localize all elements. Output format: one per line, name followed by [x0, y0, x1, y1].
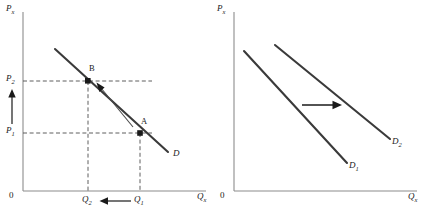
quantity-decrease-arrow [100, 197, 132, 204]
right-panel-graphic [211, 0, 422, 215]
x-tick-label-q1: Q1 [134, 195, 144, 206]
movement-arrow-A-to-B [97, 83, 134, 127]
left-origin-label: 0 [9, 191, 14, 200]
right-panel-shift-of-curve: Px Qx 0 D1 D2 [211, 0, 422, 215]
left-x-axis-label: Qx [197, 192, 206, 203]
curve-label-D2: D2 [392, 137, 402, 148]
price-increase-arrow [8, 89, 15, 124]
point-label-B: B [89, 64, 95, 73]
shift-right-arrow [302, 101, 342, 109]
left-panel-movement-along-curve: Px Qx 0 P2 P1 Q2 Q1 B A D [0, 0, 211, 215]
curve-label-D: D [173, 149, 180, 160]
demand-curve-D1 [244, 51, 347, 163]
right-x-axis-label: Qx [408, 192, 417, 203]
demand-curve-D2 [275, 45, 390, 139]
curve-label-D1: D1 [349, 161, 359, 172]
right-origin-label: 0 [220, 191, 225, 200]
point-marker-A [137, 130, 143, 136]
x-tick-label-q2: Q2 [82, 195, 92, 206]
point-label-A: A [141, 117, 147, 126]
right-y-axis-label: Px [217, 4, 225, 15]
y-tick-label-p2: P2 [6, 74, 15, 85]
left-panel-graphic [0, 0, 211, 215]
point-marker-B [85, 78, 91, 84]
figure-container: Px Qx 0 P2 P1 Q2 Q1 B A D [0, 0, 422, 215]
y-tick-label-p1: P1 [6, 126, 15, 137]
left-y-axis-label: Px [6, 4, 14, 15]
